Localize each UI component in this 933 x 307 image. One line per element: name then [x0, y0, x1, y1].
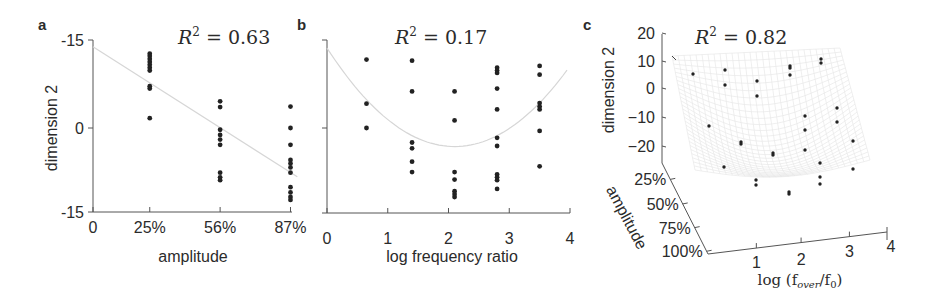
data-point-c: [803, 114, 806, 117]
z-tick-label-c: −20: [628, 138, 655, 155]
data-point-c: [818, 182, 821, 185]
mesh-line-c: [804, 50, 833, 170]
panel-c: R2 = 0.82 20100−10−2025%50%75%100%1234 d…: [600, 25, 896, 290]
data-point-c: [707, 124, 710, 127]
x-tick-label-b: 1: [383, 230, 392, 247]
x-tick-label-c: 3: [845, 243, 854, 260]
data-point-a: [147, 68, 152, 73]
data-point-c: [818, 161, 821, 164]
panel-label-a: a: [38, 16, 47, 33]
amplitude-tick-c: [683, 203, 688, 204]
data-point-b: [537, 129, 542, 134]
data-point-c: [818, 175, 821, 178]
z-tick-label-c: 0: [646, 80, 655, 97]
data-point-c: [787, 192, 790, 195]
z-tick-c: [662, 33, 666, 34]
y-axis-label-c: amplitude: [603, 183, 651, 252]
x-tick-label-a: 56%: [204, 219, 236, 236]
data-point-b: [410, 170, 415, 175]
x-tick-label-a: 87%: [274, 219, 306, 236]
y-axis-label-a: dimension 2: [43, 85, 60, 171]
data-point-a: [218, 127, 223, 132]
panel-b: R2 = 0.17 01234 log frequency ratio: [322, 25, 575, 265]
data-point-a: [288, 126, 293, 131]
data-point-b: [452, 195, 457, 200]
x-tick-label-a: 0: [89, 219, 98, 236]
z-tick-label-c: 10: [637, 53, 655, 70]
data-point-a: [218, 137, 223, 142]
y-tick-label-a: -15: [61, 204, 84, 221]
data-point-c: [803, 148, 806, 151]
z-tick-c: [662, 88, 666, 89]
data-point-c: [723, 83, 726, 86]
data-point-a: [218, 99, 223, 104]
x-tick-label-b: 0: [323, 230, 332, 247]
data-point-b: [452, 170, 457, 175]
data-point-b: [495, 135, 500, 140]
data-point-b: [537, 72, 542, 77]
y-tick-label-a: -15: [61, 32, 84, 49]
data-point-a: [218, 133, 223, 138]
data-point-c: [754, 178, 757, 181]
data-point-b: [410, 89, 415, 94]
data-point-b: [452, 118, 457, 123]
data-point-c: [754, 183, 757, 186]
data-point-c: [788, 73, 791, 76]
x-tick-label-c: 2: [797, 251, 806, 268]
data-point-c: [723, 68, 726, 71]
x-tick-label-c: 1: [752, 254, 761, 271]
x-tick-label-b: 3: [505, 230, 514, 247]
data-point-b: [537, 164, 542, 169]
z-axis-label-c: dimension 2: [600, 47, 617, 133]
data-point-c: [788, 66, 791, 69]
data-point-a: [288, 142, 293, 147]
data-point-b: [364, 126, 369, 131]
mesh-line-c: [680, 88, 851, 125]
data-point-a: [288, 165, 293, 170]
amplitude-tick-label-c: 50%: [647, 196, 679, 213]
z-tick-c: [662, 61, 666, 62]
data-point-b: [410, 140, 415, 145]
data-point-a: [288, 190, 293, 195]
data-point-b: [495, 107, 500, 112]
data-point-c: [771, 153, 774, 156]
data-point-c: [819, 57, 822, 60]
data-point-a: [288, 170, 293, 175]
x-axis-label-b: log frequency ratio: [386, 248, 518, 265]
data-point-a: [218, 105, 223, 110]
data-point-b: [495, 86, 500, 91]
mesh-line-c: [714, 54, 739, 176]
r2-label-c: R2 = 0.82: [694, 25, 787, 48]
data-point-b: [364, 101, 369, 106]
r2-label-a: R2 = 0.63: [177, 25, 270, 48]
data-point-c: [835, 106, 838, 109]
data-point-c: [819, 61, 822, 64]
data-point-b: [452, 177, 457, 182]
fit-line-a: [93, 47, 297, 177]
x-tick-label-b: 4: [566, 230, 575, 247]
data-point-c: [691, 72, 694, 75]
x-axis-label-c: log (fover/f0): [758, 271, 843, 290]
data-point-c: [803, 128, 806, 131]
x-axis-label-a: amplitude: [158, 248, 227, 265]
y-tick-label-a: 0: [75, 120, 84, 137]
data-point-b: [537, 107, 542, 112]
data-point-c: [755, 94, 758, 97]
z-tick-c: [662, 146, 666, 147]
fit-curve-b: [327, 48, 567, 147]
data-point-c: [722, 165, 725, 168]
figure: a b c R2 = 0.63 025%56%87%-150-15 dimens…: [0, 0, 933, 307]
data-point-b: [495, 144, 500, 149]
data-point-a: [288, 198, 293, 203]
data-point-a: [218, 170, 223, 175]
data-point-a: [288, 104, 293, 109]
amplitude-tick-c: [670, 178, 675, 179]
panel-label-b: b: [297, 16, 306, 33]
data-point-c: [851, 167, 854, 170]
z-tick-label-c: 20: [637, 25, 655, 42]
amplitude-tick-label-c: 75%: [659, 220, 691, 237]
data-point-a: [288, 185, 293, 190]
data-point-b: [495, 178, 500, 183]
amplitude-tick-c: [695, 227, 700, 228]
x-tick-label-c: 4: [887, 238, 896, 255]
